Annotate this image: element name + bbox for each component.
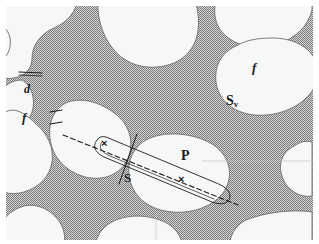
micrograph-image: d f f Sv S P × × [6,6,313,240]
label-f-right: f [252,61,256,74]
label-sv-base: S [226,93,234,108]
marker-x-left: × [101,138,107,149]
microstructure-rendering [6,6,313,240]
phase-map [6,6,313,240]
label-sv: Sv [226,94,238,109]
label-d: d [24,83,30,95]
label-f-left: f [22,111,26,124]
label-s: S [124,171,131,184]
marker-x-right: × [178,174,184,185]
label-sv-subscript: v [234,99,239,109]
figure-root: d f f Sv S P × × [0,0,319,244]
label-p: P [181,149,190,163]
